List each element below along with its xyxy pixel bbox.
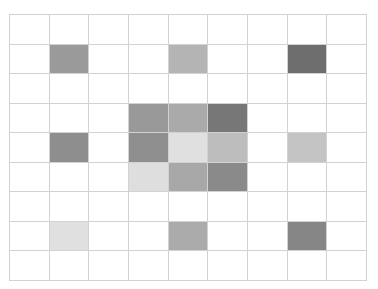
heatmap-cell xyxy=(208,251,248,281)
heatmap-cell xyxy=(248,15,288,45)
heatmap-cell xyxy=(288,15,328,45)
heatmap-cell xyxy=(248,45,288,75)
heatmap-cell xyxy=(169,163,209,193)
heatmap-cell xyxy=(129,74,169,104)
heatmap-cell xyxy=(89,192,129,222)
heatmap-cell xyxy=(10,74,50,104)
heatmap-cell xyxy=(288,104,328,134)
heatmap-cell xyxy=(169,15,209,45)
heatmap-cell xyxy=(89,104,129,134)
heatmap-cell xyxy=(327,74,367,104)
heatmap-cell xyxy=(129,104,169,134)
heatmap-cell xyxy=(50,45,90,75)
heatmap-cell xyxy=(129,133,169,163)
heatmap-cell xyxy=(169,74,209,104)
heatmap-cell xyxy=(10,133,50,163)
heatmap-cell xyxy=(288,251,328,281)
heatmap-cell xyxy=(129,222,169,252)
heatmap-cell xyxy=(50,15,90,45)
heatmap-cell xyxy=(89,251,129,281)
heatmap-cell xyxy=(248,192,288,222)
heatmap-cell xyxy=(10,45,50,75)
heatmap-cell xyxy=(208,163,248,193)
heatmap-cell xyxy=(10,251,50,281)
heatmap-cell xyxy=(248,133,288,163)
heatmap-cell xyxy=(169,45,209,75)
heatmap-cell xyxy=(288,133,328,163)
heatmap-cell xyxy=(208,222,248,252)
heatmap-cell xyxy=(208,45,248,75)
heatmap-cell xyxy=(208,74,248,104)
heatmap-cell xyxy=(208,133,248,163)
heatmap-cell xyxy=(327,222,367,252)
heatmap-cell xyxy=(288,192,328,222)
heatmap-cell xyxy=(208,192,248,222)
heatmap-cell xyxy=(248,251,288,281)
heatmap-cell xyxy=(89,74,129,104)
heatmap-cell xyxy=(169,192,209,222)
heatmap-cell xyxy=(129,45,169,75)
heatmap-cell xyxy=(129,163,169,193)
heatmap-cell xyxy=(10,104,50,134)
heatmap-cell xyxy=(208,15,248,45)
heatmap-cell xyxy=(89,133,129,163)
heatmap-cell xyxy=(50,163,90,193)
heatmap-cell xyxy=(50,104,90,134)
heatmap-cell xyxy=(327,163,367,193)
heatmap-cell xyxy=(248,222,288,252)
heatmap-cell xyxy=(248,104,288,134)
heatmap-cell xyxy=(50,251,90,281)
heatmap-cell xyxy=(169,133,209,163)
heatmap-cell xyxy=(10,222,50,252)
heatmap-cell xyxy=(10,192,50,222)
heatmap-cell xyxy=(50,192,90,222)
heatmap-cell xyxy=(50,133,90,163)
heatmap-cell xyxy=(288,222,328,252)
heatmap-cell xyxy=(50,222,90,252)
heatmap-cell xyxy=(169,222,209,252)
heatmap-cell xyxy=(248,74,288,104)
heatmap-cell xyxy=(208,104,248,134)
heatmap-cell xyxy=(327,104,367,134)
heatmap-cell xyxy=(327,45,367,75)
heatmap-cell xyxy=(327,251,367,281)
heatmap-cell xyxy=(288,74,328,104)
heatmap-cell xyxy=(327,192,367,222)
heatmap-cell xyxy=(169,251,209,281)
heatmap-cell xyxy=(288,163,328,193)
heatmap-cell xyxy=(248,163,288,193)
heatmap-cell xyxy=(50,74,90,104)
heatmap-cell xyxy=(327,133,367,163)
heatmap-cell xyxy=(288,45,328,75)
heatmap-cell xyxy=(129,192,169,222)
heatmap-cell xyxy=(327,15,367,45)
heatmap-cell xyxy=(129,15,169,45)
heatmap-cell xyxy=(89,45,129,75)
heatmap-cell xyxy=(89,15,129,45)
heatmap-cell xyxy=(169,104,209,134)
heatmap-cell xyxy=(89,163,129,193)
heatmap-grid xyxy=(9,14,367,281)
heatmap-cell xyxy=(10,15,50,45)
heatmap-cell xyxy=(89,222,129,252)
heatmap-cell xyxy=(10,163,50,193)
heatmap-cell xyxy=(129,251,169,281)
